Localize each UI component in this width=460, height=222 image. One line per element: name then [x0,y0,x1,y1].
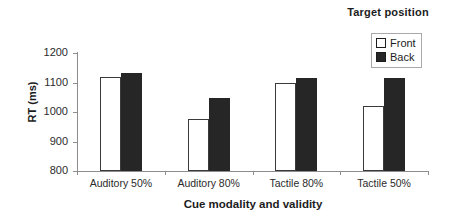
plot-area [77,53,428,171]
bar-back [296,78,317,171]
x-tick-mark [428,171,429,175]
y-tick-label: 800 [28,164,68,176]
bar-chart: Target position Front Back 8009001000110… [0,0,460,222]
y-axis-title: RT (ms) [26,62,38,142]
bar-front [363,106,384,171]
x-category-label: Tactile 80% [253,177,341,189]
x-tick-mark [340,171,341,175]
bar-front [188,119,209,171]
x-category-label: Auditory 50% [77,177,165,189]
legend-item-front: Front [376,36,416,50]
y-tick-label: 1200 [28,46,68,58]
x-category-label: Tactile 50% [340,177,428,189]
x-category-label: Auditory 80% [165,177,253,189]
x-axis-title: Cue modality and validity [77,198,429,210]
bar-back [384,78,405,172]
legend-title: Target position [328,6,448,18]
legend-swatch-front-icon [376,38,386,48]
x-tick-mark [253,171,254,175]
legend-label-front: Front [390,37,416,49]
x-tick-mark [165,171,166,175]
bar-front [100,77,121,171]
x-tick-mark [77,171,78,175]
bar-front [275,83,296,171]
bar-back [121,73,142,171]
bar-back [209,98,230,171]
